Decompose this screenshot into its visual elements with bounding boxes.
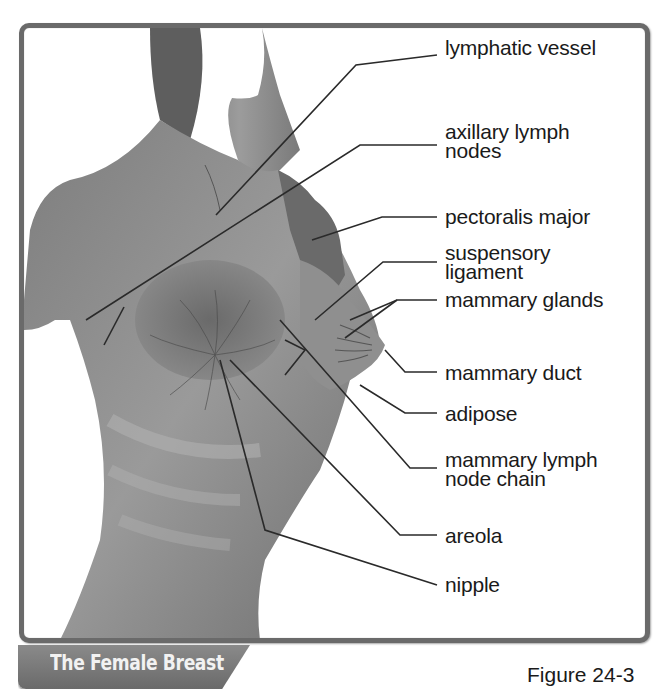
breast-front	[135, 260, 285, 380]
label-pectoralis-major: pectoralis major	[445, 207, 590, 226]
label-mammary-lymph-node-chain: mammary lymph node chain	[445, 450, 598, 488]
figure-number: Figure 24-3	[527, 663, 634, 687]
label-suspensory-ligament: suspensory ligament	[445, 243, 550, 281]
leader-adipose	[360, 385, 437, 413]
label-areola: areola	[445, 526, 502, 545]
label-axillary-lymph-nodes: axillary lymph nodes	[445, 122, 569, 160]
label-lymphatic-vessel: lymphatic vessel	[445, 38, 596, 57]
label-nipple: nipple	[445, 575, 500, 594]
label-mammary-glands: mammary glands	[445, 290, 603, 309]
figure-title: The Female Breast	[50, 650, 224, 675]
label-mammary-duct: mammary duct	[445, 363, 581, 382]
leader-mammary-duct	[385, 350, 437, 372]
anatomy-illustration	[0, 0, 671, 698]
label-adipose: adipose	[445, 404, 517, 423]
